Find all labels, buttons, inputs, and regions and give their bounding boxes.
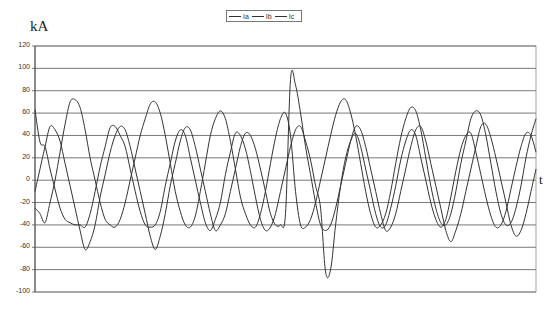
series-line-ib — [35, 70, 536, 250]
plot-area — [0, 0, 554, 313]
series-line-ia — [35, 110, 536, 278]
